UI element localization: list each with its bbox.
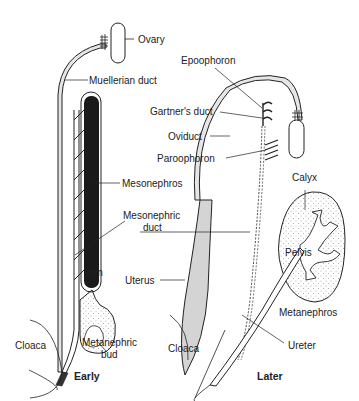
mesonephros-shape (84, 96, 99, 288)
oviduct-shape (194, 76, 302, 200)
paroophoron-shape (265, 140, 278, 160)
label-ovary: Ovary (138, 34, 165, 45)
label-mullerian-duct: Muellerian duct (89, 75, 157, 86)
label-calyx: Calyx (292, 172, 317, 183)
label-pelvis: Pelvis (285, 247, 312, 258)
label-epoophoron: Epoophoron (181, 55, 236, 66)
label-ureter: Ureter (288, 340, 316, 351)
label-oviduct: Oviduct (168, 131, 202, 142)
epoophoron-shape (263, 102, 272, 126)
label-cloaca-early: Cloaca (15, 340, 46, 351)
label-metanephric-bud-line2: bud (101, 349, 118, 360)
label-nm: nm (89, 267, 103, 278)
label-gartners-duct: Gartner's duct (150, 106, 213, 117)
ovary-early-shape (111, 23, 125, 63)
ovary-later-shape (289, 120, 304, 158)
label-cloaca-later: Cloaca (168, 343, 199, 354)
label-mesonephric-duct-line1: Mesonephric (123, 210, 180, 221)
label-metanephros: Metanephros (279, 307, 337, 318)
label-mesonephric-duct-line2: duct (143, 222, 162, 233)
label-metanephric-bud-line1: Metanephric (82, 337, 137, 348)
caption-later: Later (257, 370, 283, 382)
label-paroophoron: Paroophoron (157, 153, 215, 164)
label-uterus: Uterus (125, 275, 154, 286)
label-mesonephros: Mesonephros (122, 178, 183, 189)
caption-early: Early (74, 370, 100, 382)
